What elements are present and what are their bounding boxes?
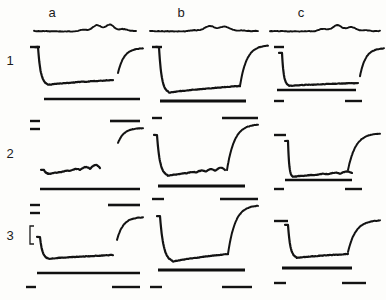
column-label-b: b bbox=[177, 5, 184, 20]
column-label-c: c bbox=[298, 5, 305, 20]
figure-root: abc 123 bbox=[0, 0, 386, 300]
row-label-3: 3 bbox=[6, 228, 13, 243]
row-label-2: 2 bbox=[6, 146, 13, 161]
recording-traces-figure: abc 123 bbox=[0, 0, 386, 300]
column-label-a: a bbox=[48, 5, 56, 20]
row-label-1: 1 bbox=[6, 53, 13, 68]
